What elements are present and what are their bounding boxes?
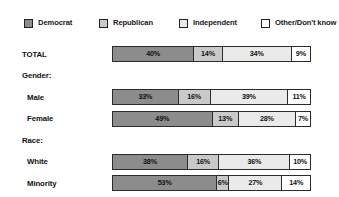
row-label: Minority: [27, 175, 57, 191]
stacked-bar: 49%13%28%7%: [112, 111, 311, 127]
bar-segment-0: 40%: [113, 47, 194, 61]
bar-segment-value: 33%: [138, 93, 152, 101]
bar-segment-value: 53%: [158, 179, 172, 187]
bar-segment-value: 14%: [201, 50, 215, 58]
bar-segment-2: 28%: [239, 112, 296, 126]
stacked-bar: 33%16%39%11%: [112, 89, 311, 105]
legend-item-2[interactable]: Independent: [179, 16, 237, 30]
legend-item-0[interactable]: Democrat: [24, 16, 72, 30]
bar-segment-1: 14%: [194, 47, 222, 61]
chart-row: Female49%13%28%7%: [0, 111, 339, 127]
bar-segment-3: 10%: [290, 155, 310, 169]
legend-label-1: Republican: [113, 18, 153, 28]
legend-label-0: Democrat: [38, 18, 72, 28]
bar-segment-3: 14%: [282, 176, 310, 190]
bar-segment-value: 16%: [196, 158, 210, 166]
bar-segment-value: 11%: [292, 93, 305, 101]
legend-label-2: Independent: [193, 18, 237, 28]
chart-row: Minority53%6%27%14%: [0, 175, 339, 191]
bar-segment-2: 36%: [219, 155, 290, 169]
bar-segment-2: 27%: [229, 176, 282, 190]
bar-segment-0: 33%: [113, 90, 179, 104]
bar-segment-1: 6%: [217, 176, 229, 190]
bar-segment-2: 34%: [223, 47, 292, 61]
row-label: Male: [27, 89, 44, 105]
legend-label-3: Other/Don't know: [275, 18, 336, 28]
bar-segment-3: 7%: [296, 112, 310, 126]
stacked-bar: 40%14%34%9%: [112, 46, 311, 62]
stacked-bar-chart: DemocratRepublicanIndependentOther/Don't…: [0, 0, 339, 197]
chart-row: Race:: [0, 132, 339, 148]
legend-swatch-democrat: [24, 19, 33, 28]
legend-item-1[interactable]: Republican: [99, 16, 153, 30]
stacked-bar: 53%6%27%14%: [112, 175, 311, 191]
bar-segment-0: 53%: [113, 176, 217, 190]
bar-segment-value: 38%: [143, 158, 157, 166]
bar-segment-value: 7%: [298, 115, 308, 123]
bar-segment-value: 49%: [155, 115, 169, 123]
chart-row: TOTAL40%14%34%9%: [0, 46, 339, 62]
row-label: Female: [27, 111, 53, 127]
bar-segment-0: 49%: [113, 112, 213, 126]
bar-segment-value: 34%: [250, 50, 264, 58]
bar-segment-3: 11%: [288, 90, 310, 104]
row-group-header: Gender:: [22, 68, 51, 84]
bar-segment-value: 27%: [248, 179, 262, 187]
stacked-bar: 38%16%36%10%: [112, 154, 311, 170]
row-label: White: [27, 154, 48, 170]
row-label: TOTAL: [22, 46, 47, 62]
legend-swatch-republican: [99, 19, 108, 28]
bar-segment-value: 13%: [218, 115, 232, 123]
bar-segment-value: 36%: [247, 158, 261, 166]
bar-segment-value: 6%: [218, 179, 228, 187]
bar-segment-value: 9%: [296, 50, 306, 58]
chart-row: Male33%16%39%11%: [0, 89, 339, 105]
bar-segment-value: 28%: [260, 115, 274, 123]
bar-segment-value: 39%: [242, 93, 256, 101]
legend-swatch-other: [261, 19, 270, 28]
bar-segment-value: 10%: [293, 158, 307, 166]
bar-segment-3: 9%: [292, 47, 310, 61]
bar-segment-1: 16%: [188, 155, 220, 169]
bar-segment-0: 38%: [113, 155, 188, 169]
bar-segment-value: 40%: [146, 50, 160, 58]
bar-segment-1: 13%: [213, 112, 239, 126]
bar-segment-value: 14%: [289, 179, 303, 187]
bar-segment-value: 16%: [187, 93, 201, 101]
legend-swatch-independent: [179, 19, 188, 28]
bar-segment-1: 16%: [179, 90, 211, 104]
row-group-header: Race:: [22, 132, 43, 148]
chart-legend: DemocratRepublicanIndependentOther/Don't…: [0, 16, 339, 30]
legend-item-3[interactable]: Other/Don't know: [261, 16, 336, 30]
bar-segment-2: 39%: [211, 90, 289, 104]
chart-row: White38%16%36%10%: [0, 154, 339, 170]
chart-row: Gender:: [0, 68, 339, 84]
